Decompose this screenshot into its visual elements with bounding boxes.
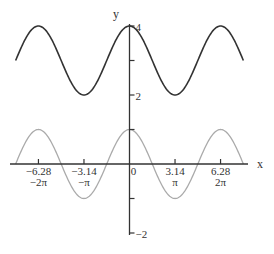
chart-svg: −6.28−2π−3.14−π03.14π6.282π42−2xy xyxy=(0,0,274,254)
axes-layer xyxy=(10,24,248,235)
chart-container: −6.28−2π−3.14−π03.14π6.282π42−2xy xyxy=(0,0,274,254)
x-tick-sublabel: 2π xyxy=(215,176,227,188)
x-tick-sublabel: −2π xyxy=(30,176,48,188)
y-tick-label: 4 xyxy=(136,21,142,33)
y-tick-label: 2 xyxy=(136,90,142,102)
x-tick-label: 0 xyxy=(131,165,137,177)
y-tick-label: −2 xyxy=(136,228,148,240)
y-axis-label: y xyxy=(113,7,119,21)
x-axis-label: x xyxy=(257,157,263,171)
x-tick-sublabel: −π xyxy=(78,176,90,188)
x-tick-sublabel: π xyxy=(172,176,178,188)
